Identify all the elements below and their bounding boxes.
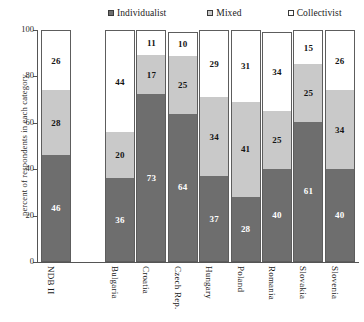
- x-axis-labels: NDB IIBulgariaCroatiaCzech Rep.HungaryPo…: [37, 264, 359, 320]
- y-tick-label: 100: [21, 24, 34, 34]
- bar-hungary[interactable]: 293437: [199, 30, 229, 262]
- legend-item-mixed: Mixed: [207, 8, 241, 18]
- bar-bulgaria[interactable]: 442036: [105, 30, 135, 262]
- x-axis-line: [37, 262, 359, 263]
- x-tick-label-text: Hungary: [204, 266, 214, 299]
- bar-ndb-ii[interactable]: 262846: [41, 30, 71, 262]
- segment-collectivist: 44: [105, 30, 135, 132]
- x-tick-label-poland: Poland: [231, 264, 261, 320]
- x-tick-label-text: Bulgaria: [110, 266, 120, 299]
- legend-swatch-individualist-icon: [108, 10, 114, 16]
- x-tick-label-text: Slovakia: [298, 266, 308, 299]
- segment-mixed: 41: [231, 102, 261, 197]
- segment-collectivist: 26: [41, 30, 71, 90]
- chart-legend: Individualist Mixed Collectivist: [108, 6, 358, 20]
- y-tick-label: 80: [26, 70, 35, 80]
- x-tick-label-slovakia: Slovakia: [293, 264, 323, 320]
- legend-swatch-mixed-icon: [207, 10, 213, 16]
- segment-mixed: 25: [293, 64, 323, 121]
- x-tick-label-text: Poland: [236, 266, 246, 292]
- segment-individualist: 28: [231, 197, 261, 262]
- y-tick-label: 40: [26, 163, 35, 173]
- segment-mixed: 25: [168, 56, 198, 114]
- segment-mixed: 20: [105, 132, 135, 178]
- y-tick-label: 0: [30, 256, 34, 266]
- segment-mixed: 28: [41, 90, 71, 155]
- legend-label-collectivist: Collectivist: [297, 8, 342, 18]
- x-tick-label-ndb-ii: NDB II: [41, 264, 71, 320]
- bar-poland[interactable]: 314128: [231, 30, 261, 262]
- x-tick-label-slovenia: Slovenia: [325, 264, 355, 320]
- segment-individualist: 46: [41, 155, 71, 262]
- legend-label-mixed: Mixed: [216, 8, 241, 18]
- segment-mixed: 34: [199, 97, 229, 176]
- bar-slovenia[interactable]: 263440: [325, 30, 355, 262]
- y-tick-label: 20: [26, 210, 35, 220]
- segment-individualist: 37: [199, 176, 229, 262]
- segment-individualist: 40: [325, 169, 355, 262]
- bar-romania[interactable]: 342540: [262, 30, 292, 262]
- x-tick-label-text: Romania: [267, 266, 277, 300]
- segment-individualist: 40: [262, 169, 292, 262]
- x-tick-label-text: Croatia: [141, 266, 151, 294]
- legend-label-individualist: Individualist: [117, 8, 166, 18]
- segment-mixed: 25: [262, 111, 292, 169]
- x-tick-label-croatia: Croatia: [136, 264, 166, 320]
- legend-item-individualist: Individualist: [108, 8, 166, 18]
- x-tick-label-bulgaria: Bulgaria: [105, 264, 135, 320]
- x-tick-label-text: Slovenia: [330, 266, 340, 299]
- segment-collectivist: 10: [168, 32, 198, 55]
- bar-czech-rep[interactable]: 102564: [168, 30, 198, 262]
- legend-swatch-collectivist-icon: [288, 10, 294, 16]
- bar-slovakia[interactable]: 152561: [293, 30, 323, 262]
- segment-collectivist: 29: [199, 30, 229, 97]
- chart-root: Individualist Mixed Collectivist percent…: [0, 0, 364, 322]
- x-tick-label-hungary: Hungary: [199, 264, 229, 320]
- segment-collectivist: 15: [293, 30, 323, 64]
- x-tick-label-romania: Romania: [262, 264, 292, 320]
- segment-individualist: 36: [105, 178, 135, 262]
- x-tick-label-text: Czech Rep.: [173, 266, 183, 309]
- segment-collectivist: 11: [136, 30, 166, 55]
- segment-collectivist: 26: [325, 30, 355, 90]
- y-tick-label: 60: [26, 117, 35, 127]
- segment-mixed: 17: [136, 55, 166, 94]
- plot-area: 020406080100 262846442036111773102564293…: [37, 30, 359, 262]
- segment-individualist: 73: [136, 94, 166, 262]
- segment-individualist: 64: [168, 114, 198, 262]
- segment-mixed: 34: [325, 90, 355, 169]
- segment-collectivist: 34: [262, 32, 292, 111]
- segment-collectivist: 31: [231, 30, 261, 102]
- bar-croatia[interactable]: 111773: [136, 30, 166, 262]
- segment-individualist: 61: [293, 122, 323, 262]
- x-tick-label-czech-rep: Czech Rep.: [168, 264, 198, 320]
- bar-group: 2628464420361117731025642934373141283425…: [37, 30, 359, 262]
- x-tick-label-text: NDB II: [46, 266, 56, 294]
- legend-item-collectivist: Collectivist: [288, 8, 342, 18]
